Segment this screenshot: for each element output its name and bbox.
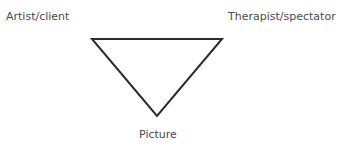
label-artist-client: Artist/client bbox=[6, 10, 69, 23]
label-picture: Picture bbox=[139, 128, 177, 141]
label-therapist-spectator: Therapist/spectator bbox=[228, 10, 336, 23]
triangle-shape bbox=[92, 39, 222, 116]
